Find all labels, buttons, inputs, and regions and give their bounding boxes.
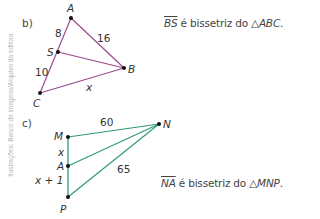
measure-ab: 16 bbox=[97, 32, 111, 44]
point-s bbox=[56, 50, 60, 54]
vertex-s-label: S bbox=[47, 46, 54, 58]
vertex-a-label-c: A bbox=[56, 160, 64, 172]
side-cb bbox=[40, 68, 124, 93]
triangle-name-c: MNP bbox=[257, 177, 280, 189]
point-a2 bbox=[66, 164, 70, 168]
caption-c-text: é bissetriz do bbox=[176, 177, 250, 189]
triangle-symbol-b: △ bbox=[251, 17, 259, 29]
point-b bbox=[122, 66, 126, 70]
measure-cb: x bbox=[85, 81, 93, 93]
caption-b-end: . bbox=[280, 17, 283, 29]
vertex-m-label: M bbox=[54, 130, 63, 142]
point-m bbox=[66, 135, 70, 139]
caption-b-text: é bissetriz do bbox=[177, 17, 251, 29]
measure-as: 8 bbox=[55, 27, 62, 39]
part-c-label: c) bbox=[22, 117, 32, 129]
measure-ma: x bbox=[57, 146, 65, 158]
segment-na: NA bbox=[161, 177, 176, 189]
caption-c-end: . bbox=[280, 177, 283, 189]
segment-bs: BS bbox=[164, 17, 177, 29]
vertex-n-label: N bbox=[163, 118, 171, 130]
triangle-mnp-figure: c) M A P N 60 x x + 1 65 bbox=[22, 116, 171, 215]
vertex-c-label: C bbox=[33, 97, 41, 109]
vertex-b-label: B bbox=[128, 63, 135, 75]
point-c bbox=[38, 91, 42, 95]
vertex-a-label: A bbox=[66, 2, 74, 14]
point-p bbox=[66, 195, 70, 199]
triangle-symbol-c: △ bbox=[249, 177, 257, 189]
point-a bbox=[69, 16, 73, 20]
caption-b: BS é bissetriz do △ABC. bbox=[164, 17, 283, 29]
triangle-abc-figure: b) A S B C 8 16 10 x bbox=[22, 2, 135, 109]
triangle-name-b: ABC bbox=[259, 17, 280, 29]
measure-sc: 10 bbox=[35, 66, 48, 78]
point-n bbox=[157, 122, 161, 126]
bisector-bs bbox=[58, 52, 124, 68]
measure-ap: x + 1 bbox=[34, 174, 63, 186]
vertex-p-label: P bbox=[60, 203, 67, 215]
measure-mn: 60 bbox=[100, 116, 113, 128]
measure-np: 65 bbox=[117, 163, 130, 175]
part-b-label: b) bbox=[22, 17, 33, 29]
caption-c: NA é bissetriz do △MNP. bbox=[161, 177, 283, 189]
